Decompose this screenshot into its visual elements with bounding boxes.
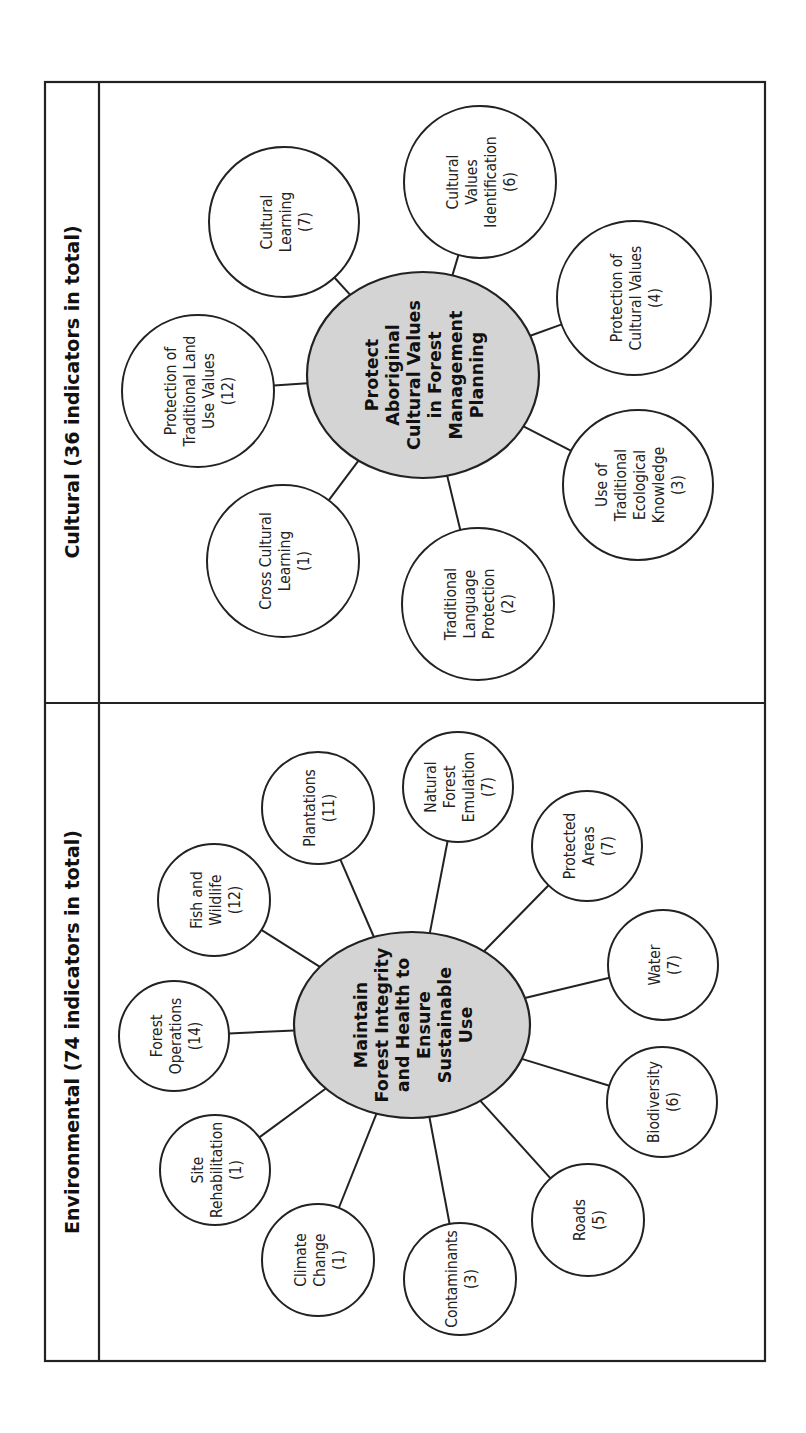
label-line: Traditional Land <box>181 336 199 448</box>
label-line: (1) <box>295 551 313 571</box>
label-line: Areas <box>580 826 598 865</box>
label-line: Protection of <box>162 346 180 435</box>
connector-line <box>530 324 561 335</box>
connector-line <box>274 383 308 385</box>
label-line: (3) <box>462 1269 480 1289</box>
label-line: (7) <box>479 777 497 797</box>
hub-cultural: ProtectAboriginalCultural Valuesin Fores… <box>307 272 539 478</box>
indicator-node: SiteRehabilitation(1) <box>160 1115 270 1225</box>
label-line: Change <box>311 1233 329 1286</box>
section-title-environmental: Environmental (74 indicators in total) <box>61 830 83 1234</box>
label-line: in Forest <box>425 331 445 418</box>
label-line: (14) <box>186 1022 204 1051</box>
connector-line <box>480 1101 550 1179</box>
label-line: Operations <box>167 998 185 1075</box>
connector-line <box>340 859 374 937</box>
connector-line <box>329 461 359 501</box>
label-line: Fish and <box>188 871 206 929</box>
label-line: (1) <box>227 1160 245 1180</box>
diagram-page: Cultural (36 indicators in total)Protect… <box>0 0 806 1433</box>
label-line: Climate <box>292 1233 310 1287</box>
label-line: (4) <box>646 288 664 308</box>
connector-line <box>259 1089 326 1138</box>
label-line: Identification <box>482 136 500 227</box>
label-line: (12) <box>226 886 244 915</box>
label-line: Roads <box>571 1199 589 1241</box>
label-line: Learning <box>277 192 295 253</box>
indicator-node: Contaminants(3) <box>404 1223 516 1335</box>
sections: Cultural (36 indicators in total)Protect… <box>61 106 718 1335</box>
section-environmental: Environmental (74 indicators in total)Ma… <box>61 732 718 1335</box>
label-line: Forest <box>148 1014 166 1057</box>
label-line: Cultural Values <box>627 246 645 351</box>
connector-line <box>339 1114 377 1208</box>
label-line: Maintain <box>351 982 371 1068</box>
label-line: Plantations <box>301 769 319 847</box>
label-line: Sustainable <box>435 967 455 1083</box>
label-line: (2) <box>499 594 517 614</box>
label-line: (7) <box>599 836 617 856</box>
indicator-node: Protection ofCultural Values(4) <box>557 221 711 375</box>
indicator-diagram: Cultural (36 indicators in total)Protect… <box>0 0 806 1433</box>
connector-line <box>229 1030 294 1033</box>
label-line: Language <box>461 570 479 639</box>
label-line: Cultural <box>444 155 462 210</box>
label-line: Protection of <box>608 253 626 342</box>
label-line: Use of <box>593 462 611 507</box>
indicator-node: Biodiversity(6) <box>607 1047 717 1157</box>
label-line: (1) <box>330 1250 348 1270</box>
label-line: (11) <box>320 794 338 823</box>
connector-line <box>522 1059 610 1086</box>
label-line: Cultural Values <box>404 300 424 450</box>
label-line: Protected <box>561 813 579 880</box>
indicator-node: NaturalForestEmulation(7) <box>403 732 513 842</box>
connector-line <box>525 978 610 998</box>
connector-line <box>261 930 320 967</box>
label-line: (7) <box>665 955 683 975</box>
section-title-text: Cultural (36 indicators in total) <box>61 225 83 558</box>
label-line: and Health to <box>393 958 413 1093</box>
indicator-node: ClimateChange(1) <box>262 1204 374 1316</box>
label-line: (12) <box>219 377 237 406</box>
label-line: Ecological <box>631 450 649 520</box>
label-line: (6) <box>501 172 519 192</box>
connector-line <box>430 841 448 933</box>
connector-line <box>524 426 572 450</box>
label-line: Protect <box>362 339 382 411</box>
label-line: Rehabilitation <box>208 1122 226 1218</box>
label-line: Water <box>646 944 664 985</box>
label-line: Use <box>456 1007 476 1044</box>
label-line: Forest Integrity <box>372 947 392 1102</box>
connector-line <box>429 1117 449 1224</box>
section-title-cultural: Cultural (36 indicators in total) <box>61 225 83 558</box>
label-line: Biodiversity <box>645 1061 663 1143</box>
indicator-node: Use ofTraditionalEcologicalKnowledge(3) <box>563 410 713 560</box>
indicator-node: CulturalValuesIdentification(6) <box>404 106 556 258</box>
label-line: Wildlife <box>207 874 225 925</box>
label-line: (3) <box>669 475 687 495</box>
label-line: Aboriginal <box>383 324 403 426</box>
label-line: Planning <box>467 332 487 419</box>
indicator-node: Water(7) <box>608 910 718 1020</box>
indicator-node: TraditionalLanguageProtection(2) <box>402 528 554 680</box>
label-line: (5) <box>590 1210 608 1230</box>
connector-line <box>452 255 458 276</box>
hub-environmental: MaintainForest Integrityand Health toEns… <box>294 932 530 1118</box>
label-line: Cultural <box>258 195 276 250</box>
connector-line <box>334 278 350 295</box>
label-line: Knowledge <box>650 447 668 524</box>
indicator-node: Protection ofTraditional LandUse Values(… <box>122 315 274 467</box>
label-line: Forest <box>441 765 459 808</box>
label-line: Emulation <box>460 752 478 822</box>
label-line: Site <box>189 1157 207 1184</box>
label-line: (7) <box>296 212 314 232</box>
indicator-node: Cross CulturalLearning(1) <box>207 485 359 637</box>
indicator-node: Roads(5) <box>532 1164 644 1276</box>
connector-line <box>484 885 549 951</box>
label-line: Management <box>446 311 466 440</box>
label-line: Protection <box>480 569 498 639</box>
section-title-text: Environmental (74 indicators in total) <box>61 830 83 1234</box>
label-line: Values <box>463 159 481 204</box>
label-line: Learning <box>276 531 294 592</box>
indicator-node: Fish andWildlife(12) <box>158 844 270 956</box>
